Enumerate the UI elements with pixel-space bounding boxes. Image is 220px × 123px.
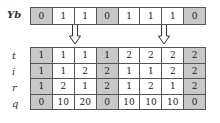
cell: 2 xyxy=(52,79,74,95)
table-row-t: 1 1 1 1 2 2 2 2 xyxy=(31,48,206,64)
cell: 2 xyxy=(118,48,140,64)
row-label-i: i xyxy=(12,66,15,77)
row-label-t: t xyxy=(12,50,16,61)
down-arrow-icon xyxy=(158,25,170,45)
cell: 10 xyxy=(118,94,140,110)
cell: 1 xyxy=(162,79,184,95)
cell: 1 xyxy=(31,63,53,79)
cell: 1 xyxy=(118,79,140,95)
cell: 1 xyxy=(31,79,53,95)
cell: 2 xyxy=(96,79,118,95)
cell: 0 xyxy=(31,94,53,110)
cell: 10 xyxy=(140,94,162,110)
cell: 2 xyxy=(184,63,206,79)
cell: 2 xyxy=(74,63,96,79)
down-arrow-icon xyxy=(69,25,81,45)
row-label-r: r xyxy=(12,82,17,93)
yb-label: Yb xyxy=(7,9,21,20)
cell: 1 xyxy=(31,48,53,64)
yb-row: 0 1 1 0 1 1 1 0 xyxy=(30,7,206,25)
yb-cell: 0 xyxy=(31,8,53,25)
cell: 0 xyxy=(96,94,118,110)
yb-cell: 1 xyxy=(140,8,162,25)
cell: 1 xyxy=(140,63,162,79)
table-row-i: 1 1 2 2 1 1 2 2 xyxy=(31,63,206,79)
cell: 1 xyxy=(52,63,74,79)
cell: 2 xyxy=(162,48,184,64)
cell: 10 xyxy=(52,94,74,110)
yb-cell: 1 xyxy=(52,8,74,25)
cell: 1 xyxy=(74,48,96,64)
tirq-table: 1 1 1 1 2 2 2 2 1 1 2 2 1 1 2 2 1 2 1 2 … xyxy=(30,47,206,110)
yb-cell: 0 xyxy=(96,8,118,25)
table-row-q: 0 10 20 0 10 10 10 0 xyxy=(31,94,206,110)
cell: 0 xyxy=(184,94,206,110)
cell: 1 xyxy=(96,48,118,64)
cell: 1 xyxy=(52,48,74,64)
cell: 10 xyxy=(162,94,184,110)
cell: 2 xyxy=(184,48,206,64)
cell: 2 xyxy=(96,63,118,79)
yb-cell: 1 xyxy=(162,8,184,25)
yb-cell: 0 xyxy=(184,8,206,25)
cell: 2 xyxy=(140,48,162,64)
cell: 1 xyxy=(74,79,96,95)
cell: 2 xyxy=(140,79,162,95)
cell: 2 xyxy=(184,79,206,95)
yb-cell: 1 xyxy=(74,8,96,25)
yb-cell: 1 xyxy=(118,8,140,25)
cell: 20 xyxy=(74,94,96,110)
row-label-q: q xyxy=(12,98,18,109)
table-row-r: 1 2 1 2 1 2 1 2 xyxy=(31,79,206,95)
cell: 2 xyxy=(162,63,184,79)
cell: 1 xyxy=(118,63,140,79)
